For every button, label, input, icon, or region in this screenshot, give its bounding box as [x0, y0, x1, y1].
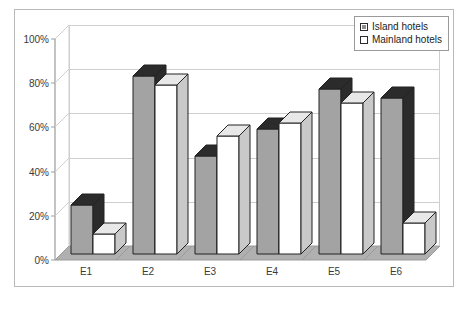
bar-E5-mainland[interactable]: [341, 92, 374, 254]
chart-container: 100% 80% 60% 40% 20% 0%: [0, 0, 471, 310]
x-axis-label-E3: E3: [178, 266, 242, 277]
legend-item-island[interactable]: Island hotels: [360, 20, 442, 33]
bar-group-E3: [195, 125, 250, 254]
bar-group-E4: [257, 112, 312, 254]
x-axis-label-E4: E4: [240, 266, 304, 277]
bar-group-E2: [133, 65, 188, 254]
x-axis-label-E6: E6: [364, 266, 428, 277]
bar-E3-mainland[interactable]: [217, 125, 250, 254]
filled-gray-square-icon: [360, 23, 368, 31]
bar-E4-mainland[interactable]: [279, 112, 312, 254]
plot-area: 100% 80% 60% 40% 20% 0%: [0, 0, 471, 310]
bar-group-E5: [319, 78, 374, 254]
bar-E6-mainland[interactable]: [403, 212, 436, 254]
legend-label-island: Island hotels: [372, 20, 428, 33]
x-axis-label-E5: E5: [302, 266, 366, 277]
legend-label-mainland: Mainland hotels: [372, 33, 442, 46]
bar-E2-mainland[interactable]: [155, 74, 188, 254]
legend-item-mainland[interactable]: Mainland hotels: [360, 33, 442, 46]
bar-group-E1: [71, 194, 126, 254]
empty-white-square-icon: [360, 36, 368, 44]
x-axis-label-E2: E2: [116, 266, 180, 277]
x-axis-label-E1: E1: [54, 266, 118, 277]
bar-group-E6: [381, 87, 436, 254]
chart-legend: Island hotels Mainland hotels: [354, 16, 449, 51]
